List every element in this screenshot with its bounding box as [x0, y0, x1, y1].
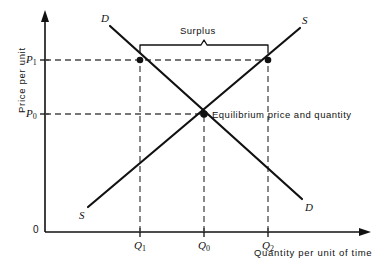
point-equilibrium [200, 110, 208, 118]
diagram-canvas [0, 0, 383, 271]
x-tick-label-Q0-text: Q [198, 239, 206, 251]
x-tick-label-Q2-sub: 2 [270, 244, 274, 253]
point-Q2-P1 [265, 57, 272, 64]
x-tick-label-Q1-sub: 1 [142, 244, 146, 253]
axis-ticks-group [40, 60, 268, 237]
demand-curve-label-bottom: D [305, 202, 313, 213]
y-tick-label-P0-sub: 0 [33, 112, 37, 121]
supply-curve-label-bottom: S [79, 210, 85, 221]
supply-curve-label-top: S [302, 15, 308, 26]
y-tick-label-P0-text: P [26, 107, 33, 119]
equilibrium-label: Equilibrium price and quantity [212, 110, 352, 120]
x-tick-label-Q1-text: Q [134, 239, 142, 251]
supply-demand-figure: 0 Price per unit Quantity per unit of ti… [0, 0, 383, 271]
surplus-label: Surplus [180, 26, 216, 36]
surplus-brace [140, 40, 268, 53]
y-axis-arrowhead [41, 10, 49, 22]
x-tick-label-Q2: Q2 [262, 240, 274, 253]
x-tick-label-Q2-text: Q [262, 239, 270, 251]
demand-curve-label-top: D [101, 13, 109, 24]
guide-lines-group [45, 60, 268, 232]
point-Q1-P1 [137, 57, 144, 64]
y-tick-label-P1: P1 [26, 54, 37, 67]
x-tick-label-Q1: Q1 [134, 240, 146, 253]
y-tick-label-P0: P0 [26, 108, 37, 121]
axis-origin-label: 0 [33, 225, 39, 235]
y-tick-label-P1-sub: 1 [33, 58, 37, 67]
y-tick-label-P1-text: P [26, 53, 33, 65]
x-tick-label-Q0: Q0 [198, 240, 210, 253]
x-axis-arrowhead [359, 228, 371, 236]
x-tick-label-Q0-sub: 0 [206, 244, 210, 253]
